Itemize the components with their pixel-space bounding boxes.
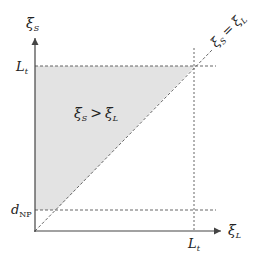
region-label: ξS>ξL xyxy=(74,105,118,123)
shaded-region xyxy=(35,66,195,210)
xi-region-diagram: ξS ξL Lt dNP Lt ξS>ξL ξS=ξL xyxy=(0,0,263,262)
y-axis-label: ξS xyxy=(26,15,40,33)
x-tick-Lt: Lt xyxy=(187,236,201,253)
x-axis-label: ξL xyxy=(228,222,241,240)
diagonal-label: ξS=ξL xyxy=(208,10,250,52)
svg-text:ξS=ξL: ξS=ξL xyxy=(208,10,250,52)
y-tick-dNP: dNP xyxy=(11,202,32,219)
y-tick-Lt: Lt xyxy=(15,59,29,76)
diagram-canvas: ξS ξL Lt dNP Lt ξS>ξL ξS=ξL xyxy=(0,0,263,262)
